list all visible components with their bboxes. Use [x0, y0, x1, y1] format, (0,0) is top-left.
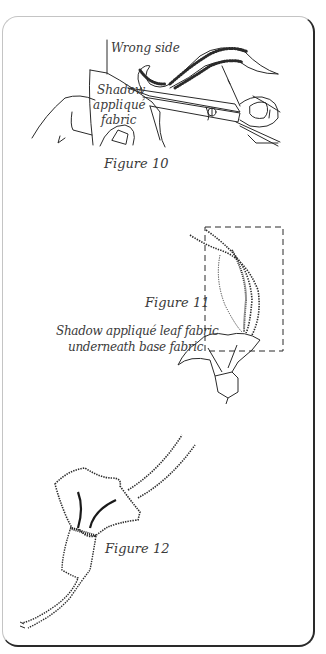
label-wrong-side: Wrong side: [111, 42, 180, 54]
figure-11-drawing: [178, 227, 283, 404]
figure-12-drawing: [20, 435, 195, 628]
figure-10-drawing: [32, 40, 280, 147]
label-leaf-fabric-line2: underneath base fabric: [68, 341, 203, 353]
label-shadow-line3: fabric: [101, 114, 137, 126]
figure-12-caption: Figure 12: [105, 542, 169, 555]
label-shadow-line2: appliqué: [93, 99, 146, 111]
label-shadow-line1: Shadow: [97, 84, 145, 96]
label-leaf-fabric-line1: Shadow appliqué leaf fabric: [56, 325, 218, 337]
figure-11-caption: Figure 11: [145, 296, 209, 309]
figure-10-caption: Figure 10: [104, 157, 168, 170]
